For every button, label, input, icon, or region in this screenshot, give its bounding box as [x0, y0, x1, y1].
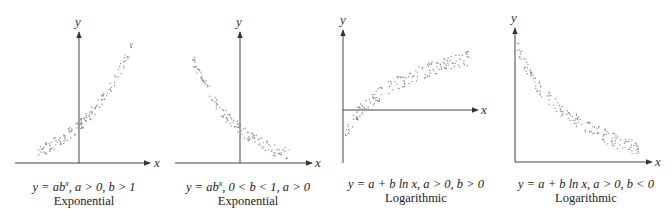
x-axis-label: x — [153, 155, 160, 170]
scatter-points — [192, 57, 290, 160]
caption-panel-3: y = a + b ln x, a > 0, b > 0 Logarithmic — [332, 177, 500, 205]
panel-1-exponential-growth: x y — [15, 14, 160, 170]
x-axis-label: x — [480, 102, 487, 117]
scatter-points — [517, 43, 640, 155]
y-axis-label: y — [338, 12, 346, 27]
equation-text: y = a + b ln x, a > 0, b > 0 — [348, 177, 484, 191]
model-name: Exponential — [0, 194, 168, 208]
y-axis-label: y — [73, 14, 81, 29]
y-axis-label: y — [234, 14, 242, 29]
caption-panel-4: y = a + b ln x, a > 0, b < 0 Logarithmic — [502, 177, 670, 205]
x-axis-label: x — [654, 154, 661, 169]
equation: y = a + b ln x, a > 0, b > 0 — [332, 177, 500, 191]
panel-2-exponential-decay: x y — [175, 14, 321, 170]
equation-text: y = a + b ln x, a > 0, b < 0 — [518, 177, 654, 191]
equation-conditions: , 0 < b < 1, a > 0 — [222, 180, 310, 194]
model-name: Logarithmic — [502, 191, 670, 205]
equation: y = abx, 0 < b < 1, a > 0 — [164, 177, 332, 194]
equation-base: y = ab — [32, 180, 65, 194]
caption-panel-1: y = abx, a > 0, b > 1 Exponential — [0, 177, 168, 208]
model-name: Logarithmic — [332, 191, 500, 205]
equation: y = abx, a > 0, b > 1 — [0, 177, 168, 194]
equation-conditions: , a > 0, b > 1 — [69, 180, 136, 194]
scatter-points — [38, 43, 133, 155]
scatter-points — [345, 51, 470, 136]
panel-3-logarithmic-increasing: x y — [338, 12, 487, 163]
x-axis-label: x — [314, 155, 321, 170]
panel-4-logarithmic-decreasing: x y — [509, 10, 661, 169]
model-name: Exponential — [164, 194, 332, 208]
caption-panel-2: y = abx, 0 < b < 1, a > 0 Exponential — [164, 177, 332, 208]
equation-base: y = ab — [186, 180, 219, 194]
y-axis-label: y — [509, 10, 517, 25]
equation: y = a + b ln x, a > 0, b < 0 — [502, 177, 670, 191]
